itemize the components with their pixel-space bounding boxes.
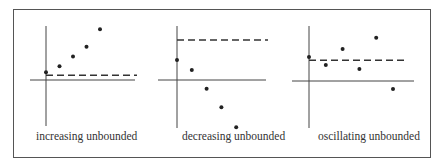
data-point [98, 27, 102, 31]
data-point [324, 63, 328, 67]
data-point [85, 45, 89, 49]
data-point [175, 58, 179, 62]
panel-3: oscillating unbounded [292, 26, 420, 143]
data-point [374, 36, 378, 40]
data-point [357, 67, 361, 71]
data-point [341, 47, 345, 51]
data-point [234, 125, 238, 129]
panel-caption: oscillating unbounded [318, 130, 420, 143]
data-point [58, 64, 62, 68]
panel-1: increasing unbounded [30, 26, 137, 143]
panel-2: decreasing unbounded [158, 26, 285, 143]
data-point [307, 55, 311, 59]
figure: increasing unboundeddecreasing unbounded… [0, 0, 442, 166]
data-point [71, 55, 75, 59]
data-point [391, 87, 395, 91]
panel-caption: increasing unbounded [36, 130, 137, 143]
data-point [190, 68, 194, 72]
data-point [44, 70, 48, 74]
data-point [219, 105, 223, 109]
panel-caption: decreasing unbounded [182, 130, 285, 143]
data-point [205, 87, 209, 91]
